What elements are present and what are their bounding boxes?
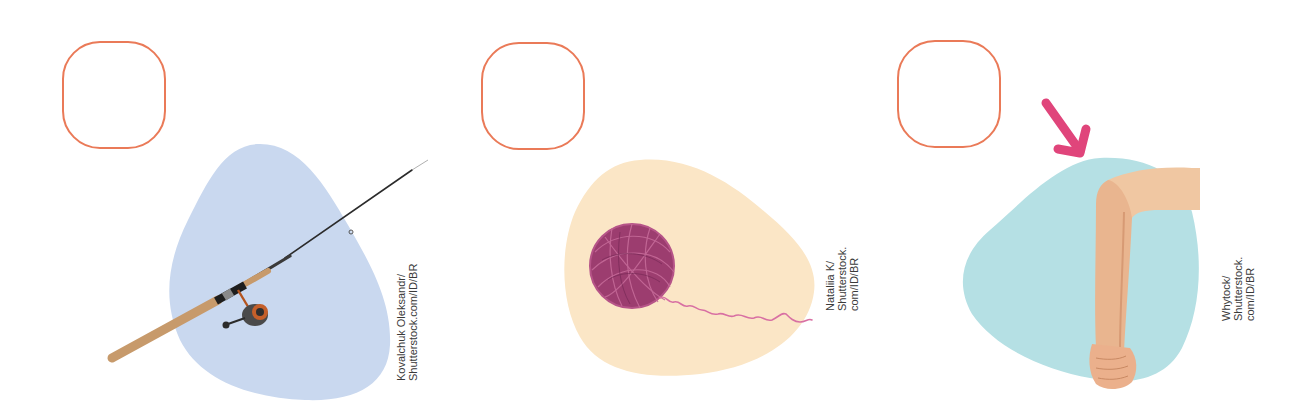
credit-line-3: com/ID/BR: [848, 247, 860, 311]
credit-line-1: Kovalchuk Oleksandr/: [395, 264, 407, 381]
photo-credit-1: Kovalchuk Oleksandr/ Shutterstock.com/ID…: [395, 264, 419, 381]
answer-box-1[interactable]: [62, 41, 166, 149]
ball-of-yarn-illustration: [550, 152, 840, 397]
photo-credit-2: Nataliia K/ Shutterstock. com/ID/BR: [824, 247, 860, 311]
credit-line-3: com/ID/BR: [1244, 257, 1256, 321]
photo-credit-3: Whytock/ Shutterstock. com/ID/BR: [1220, 257, 1256, 321]
credit-line-1: Nataliia K/: [824, 247, 836, 311]
item-ball-of-yarn: Nataliia K/ Shutterstock. com/ID/BR: [436, 0, 872, 420]
fishing-rod-illustration: [100, 140, 430, 410]
item-fishing-rod: Kovalchuk Oleksandr/ Shutterstock.com/ID…: [0, 0, 436, 420]
credit-line-2: Shutterstock.: [836, 247, 848, 311]
item-bent-arm: Whytock/ Shutterstock. com/ID/BR: [872, 0, 1308, 420]
answer-box-3[interactable]: [897, 40, 1001, 148]
blue-blob: [169, 144, 390, 400]
credit-line-2: Shutterstock.com/ID/BR: [407, 264, 419, 381]
answer-box-2[interactable]: [481, 42, 585, 150]
credit-line-2: Shutterstock.: [1232, 257, 1244, 321]
bent-arm-illustration: [960, 152, 1200, 397]
credit-line-1: Whytock/: [1220, 257, 1232, 321]
